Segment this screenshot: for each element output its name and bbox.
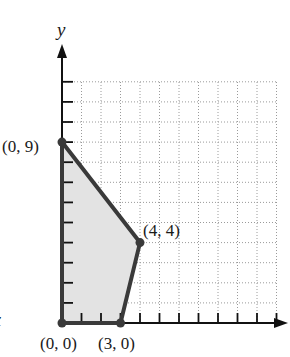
feasible-region-graph: y x (0, 9) (4, 4) (0, 0) (3, 0): [0, 0, 290, 357]
vertex-dot: [58, 138, 67, 147]
vertex-label-0-0: (0, 0): [40, 334, 77, 353]
clipped-x-axis-label: x: [0, 310, 1, 330]
y-axis-label: y: [55, 19, 66, 40]
vertex-label-3-0: (3, 0): [98, 334, 135, 353]
x-axis-arrow-icon: [274, 318, 288, 328]
vertex-label-0-9: (0, 9): [2, 137, 39, 156]
vertex-label-4-4: (4, 4): [143, 221, 180, 240]
y-axis-arrow-icon: [57, 44, 67, 58]
vertex-dot: [58, 319, 67, 328]
vertex-dot: [116, 319, 125, 328]
